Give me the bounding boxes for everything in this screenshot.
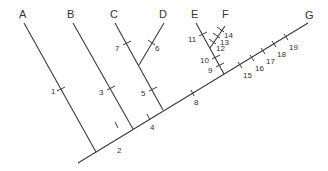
taxon-label-c: C [110,8,118,20]
character-label: 7 [115,44,120,53]
taxon-label-e: E [191,8,198,20]
character-label: 9 [208,66,213,75]
taxon-label-f: F [222,8,229,20]
character-label: 15 [243,71,252,80]
branch-a [24,23,96,152]
character-label: 8 [194,98,199,107]
character-label: 6 [155,44,160,53]
character-label: 2 [117,146,122,155]
taxon-label-d: D [159,8,167,20]
character-label: 11 [188,35,197,44]
character-ticks [57,27,288,128]
cladogram: A B C D E F G 1 2 3 4 5 6 7 8 9 10 11 12… [0,0,328,171]
character-label: 1 [51,87,56,96]
taxon-label-g: G [305,9,314,21]
taxon-label-a: A [19,8,27,20]
character-label: 16 [255,64,264,73]
character-label: 10 [200,56,209,65]
character-label: 3 [99,88,104,97]
character-label: 5 [141,89,146,98]
branch-d [139,23,164,65]
character-label: 4 [150,123,155,132]
character-label: 18 [277,50,286,59]
character-label: 17 [266,57,275,66]
character-label: 19 [289,43,298,52]
taxon-labels: A B C D E F G [19,8,314,21]
character-label: 14 [224,31,233,40]
taxon-label-b: B [67,8,74,20]
